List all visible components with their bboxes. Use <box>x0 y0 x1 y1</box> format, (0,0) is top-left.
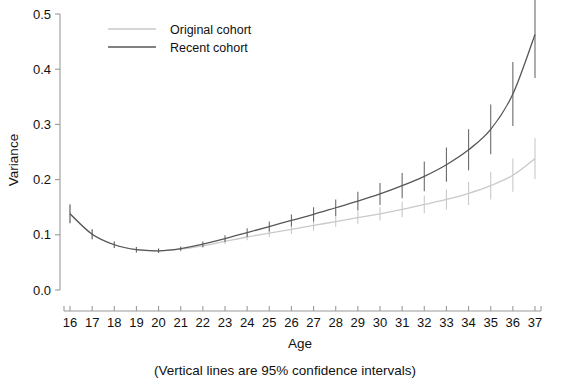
legend-label: Original cohort <box>170 23 252 37</box>
data-series-group <box>70 0 535 253</box>
x-tick-label: 36 <box>506 315 520 330</box>
x-tick-label: 30 <box>373 315 387 330</box>
x-tick-label: 20 <box>151 315 165 330</box>
x-tick-label: 24 <box>240 315 254 330</box>
y-tick-label: 0.1 <box>33 227 51 242</box>
y-tick-label: 0.5 <box>33 7 51 22</box>
x-tick-label: 19 <box>129 315 143 330</box>
series-original-cohort <box>70 138 535 253</box>
x-tick-label: 22 <box>196 315 210 330</box>
x-tick-label: 16 <box>63 315 77 330</box>
y-tick-label: 0.4 <box>33 62 51 77</box>
chart-legend: Original cohortRecent cohort <box>108 23 252 55</box>
series-line <box>70 34 535 250</box>
x-tick-label: 17 <box>85 315 99 330</box>
x-tick-label: 35 <box>483 315 497 330</box>
x-tick-label: 37 <box>528 315 542 330</box>
x-axis: 1617181920212223242526272829303132333435… <box>63 306 542 330</box>
y-tick-label: 0.2 <box>33 172 51 187</box>
variance-by-age-chart: 0.00.10.20.30.40.5 161718192021222324252… <box>0 0 565 384</box>
x-axis-title: Age <box>288 336 312 351</box>
x-tick-label: 33 <box>439 315 453 330</box>
y-axis: 0.00.10.20.30.40.5 <box>33 7 60 298</box>
x-tick-label: 28 <box>328 315 342 330</box>
y-tick-label: 0.3 <box>33 117 51 132</box>
x-tick-label: 26 <box>284 315 298 330</box>
x-tick-label: 27 <box>306 315 320 330</box>
x-tick-label: 23 <box>218 315 232 330</box>
x-tick-label: 29 <box>351 315 365 330</box>
y-tick-label: 0.0 <box>33 283 51 298</box>
x-tick-label: 31 <box>395 315 409 330</box>
x-tick-label: 34 <box>461 315 475 330</box>
y-axis-title: Variance <box>6 134 21 186</box>
x-tick-label: 21 <box>173 315 187 330</box>
series-line <box>70 159 535 251</box>
legend-label: Recent cohort <box>170 41 248 55</box>
x-tick-label: 18 <box>107 315 121 330</box>
chart-caption: (Vertical lines are 95% confidence inter… <box>154 363 416 378</box>
x-tick-label: 25 <box>262 315 276 330</box>
chart-svg: 0.00.10.20.30.40.5 161718192021222324252… <box>0 0 565 384</box>
x-tick-label: 32 <box>417 315 431 330</box>
series-recent-cohort <box>70 0 535 253</box>
